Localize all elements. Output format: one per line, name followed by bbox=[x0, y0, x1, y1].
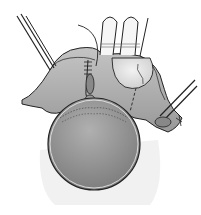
surgical-illustration bbox=[0, 0, 201, 215]
spherical-organ bbox=[48, 98, 140, 190]
retractor-blades bbox=[100, 17, 148, 56]
left-forceps bbox=[17, 14, 56, 70]
